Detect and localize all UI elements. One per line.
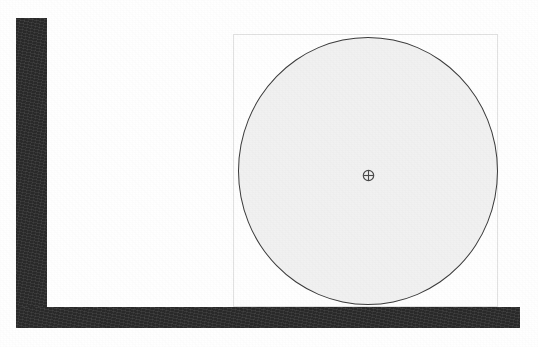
- floor-bar: [16, 307, 520, 328]
- wall-bar: [16, 18, 47, 308]
- crosshair-target-icon[interactable]: [362, 169, 375, 182]
- scene-canvas: [0, 0, 538, 347]
